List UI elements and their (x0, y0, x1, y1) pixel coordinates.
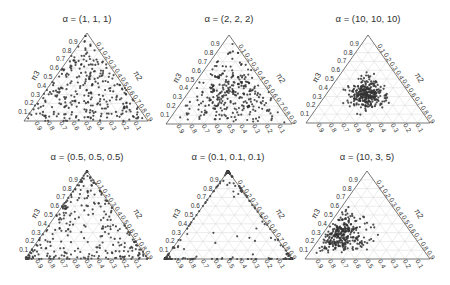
panel-title: α = (0.5, 0.5, 0.5) (51, 151, 124, 162)
svg-text:0.5: 0.5 (184, 211, 193, 218)
svg-text:0.7: 0.7 (198, 58, 207, 65)
svg-text:0.2: 0.2 (264, 123, 275, 135)
axis-label-right: π2 (131, 69, 144, 83)
svg-text:0.9: 0.9 (314, 258, 325, 270)
svg-text:0.6: 0.6 (71, 258, 82, 270)
svg-text:0.2: 0.2 (305, 237, 314, 244)
svg-text:0.2: 0.2 (402, 122, 413, 134)
svg-text:0.2: 0.2 (120, 120, 131, 132)
svg-text:0.8: 0.8 (344, 49, 353, 56)
panel-title: α = (0.1, 0.1, 0.1) (192, 151, 265, 162)
svg-text:0.3: 0.3 (251, 123, 262, 135)
svg-text:0.1: 0.1 (414, 122, 425, 134)
svg-text:0.9: 0.9 (175, 258, 186, 270)
svg-text:0.7: 0.7 (56, 193, 65, 200)
svg-text:0.8: 0.8 (46, 258, 57, 270)
svg-text:0.4: 0.4 (319, 84, 328, 91)
svg-text:0.4: 0.4 (96, 258, 107, 270)
svg-text:0.8: 0.8 (204, 49, 213, 56)
svg-text:0.9: 0.9 (349, 176, 358, 183)
svg-text:0.3: 0.3 (108, 120, 119, 132)
svg-text:0.7: 0.7 (56, 55, 65, 62)
svg-text:0.3: 0.3 (108, 258, 119, 270)
svg-text:0.9: 0.9 (350, 40, 359, 47)
svg-text:0.7: 0.7 (340, 122, 351, 134)
ternary-panel: 0.10.10.10.20.20.20.30.30.30.40.40.40.50… (159, 151, 298, 270)
ternary-panel: 0.10.10.10.20.20.20.30.30.30.40.40.40.50… (160, 13, 298, 135)
svg-text:0.7: 0.7 (59, 258, 70, 270)
axis-label-left: π3 (310, 71, 323, 85)
svg-text:0.8: 0.8 (46, 120, 57, 132)
axis-label-right: π2 (274, 207, 287, 221)
dirichlet-ternary-figure: 0.10.10.10.20.20.20.30.30.30.40.40.40.50… (0, 0, 450, 285)
svg-text:0.2: 0.2 (306, 101, 315, 108)
svg-text:0.4: 0.4 (377, 258, 388, 270)
svg-text:0.4: 0.4 (38, 220, 47, 227)
svg-text:0.1: 0.1 (276, 123, 287, 135)
svg-text:0.3: 0.3 (31, 91, 40, 98)
svg-text:0.3: 0.3 (172, 229, 181, 236)
svg-text:0.4: 0.4 (95, 120, 106, 132)
svg-text:0.7: 0.7 (200, 258, 211, 270)
svg-text:0.9: 0.9 (210, 176, 219, 183)
svg-text:0.9: 0.9 (69, 38, 78, 45)
svg-text:0.6: 0.6 (331, 66, 340, 73)
svg-text:0.5: 0.5 (83, 258, 94, 270)
svg-text:0.7: 0.7 (336, 193, 345, 200)
svg-text:0.8: 0.8 (203, 185, 212, 192)
svg-text:0.8: 0.8 (327, 258, 338, 270)
svg-text:0.4: 0.4 (178, 220, 187, 227)
svg-text:0.4: 0.4 (179, 84, 188, 91)
svg-text:0.4: 0.4 (37, 82, 46, 89)
svg-text:0.2: 0.2 (402, 258, 413, 270)
svg-text:0.9: 0.9 (211, 40, 220, 47)
svg-text:0.7: 0.7 (339, 258, 350, 270)
axis-label-left: π3 (29, 207, 42, 221)
svg-text:0.7: 0.7 (201, 123, 212, 135)
panel-title: α = (2, 2, 2) (204, 13, 253, 24)
svg-text:0.9: 0.9 (175, 123, 186, 135)
panel-title: α = (1, 1, 1) (62, 13, 111, 24)
svg-text:0.3: 0.3 (312, 229, 321, 236)
svg-text:0.5: 0.5 (325, 75, 334, 82)
svg-text:0.2: 0.2 (263, 258, 274, 270)
svg-text:0.5: 0.5 (44, 211, 53, 218)
svg-text:0.8: 0.8 (187, 258, 198, 270)
svg-text:0.2: 0.2 (120, 258, 131, 270)
svg-text:0.3: 0.3 (389, 258, 400, 270)
svg-text:0.1: 0.1 (414, 258, 425, 270)
svg-text:0.5: 0.5 (225, 258, 236, 270)
svg-text:0.8: 0.8 (188, 123, 199, 135)
ternary-panel: 0.10.10.10.20.20.20.30.30.30.40.40.40.50… (19, 151, 155, 270)
svg-text:0.9: 0.9 (315, 122, 326, 134)
svg-text:0.2: 0.2 (167, 102, 176, 109)
svg-text:0.8: 0.8 (62, 47, 71, 54)
svg-text:0.5: 0.5 (83, 120, 94, 132)
svg-text:0.6: 0.6 (352, 258, 363, 270)
axis-label-right: π2 (274, 72, 287, 86)
axis-label-right: π2 (413, 71, 426, 85)
svg-text:0.1: 0.1 (299, 246, 308, 253)
svg-text:0.4: 0.4 (377, 122, 388, 134)
svg-text:0.2: 0.2 (25, 237, 34, 244)
svg-text:0.6: 0.6 (50, 64, 59, 71)
svg-text:0.6: 0.6 (213, 123, 224, 135)
svg-text:0.6: 0.6 (192, 67, 201, 74)
svg-text:0.4: 0.4 (318, 220, 327, 227)
panel-title: α = (10, 3, 5) (340, 151, 394, 162)
svg-text:0.5: 0.5 (185, 76, 194, 83)
svg-text:0.9: 0.9 (33, 120, 44, 132)
ternary-panel: 0.10.10.10.20.20.20.30.30.30.40.40.40.50… (300, 13, 437, 134)
ternary-panel: 0.10.10.10.20.20.20.30.30.30.40.40.40.50… (18, 13, 155, 132)
svg-text:0.3: 0.3 (32, 229, 41, 236)
svg-text:0.2: 0.2 (25, 99, 34, 106)
svg-text:0.3: 0.3 (313, 93, 322, 100)
axis-label-left: π3 (171, 71, 184, 85)
svg-text:0.9: 0.9 (69, 176, 78, 183)
svg-text:0.3: 0.3 (173, 93, 182, 100)
svg-text:0.1: 0.1 (300, 110, 309, 117)
svg-text:0.3: 0.3 (251, 258, 262, 270)
panel-title: α = (10, 10, 10) (336, 13, 401, 24)
axis-label-left: π3 (29, 69, 42, 83)
svg-text:0.1: 0.1 (18, 108, 27, 115)
